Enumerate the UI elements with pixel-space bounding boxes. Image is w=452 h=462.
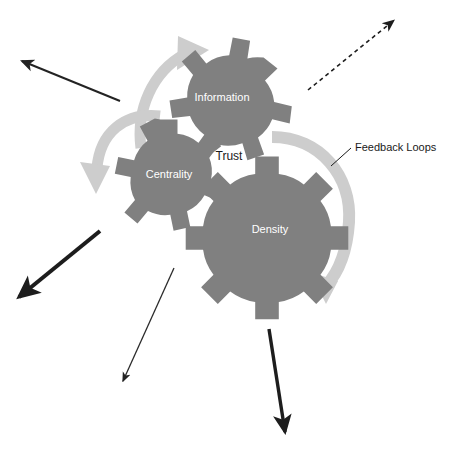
trust-label: Trust: [216, 149, 244, 163]
arrow-down-center-thick: [269, 329, 285, 432]
arrow-down-left-thick: [19, 231, 100, 297]
feedback-loops-label: Feedback Loops: [355, 141, 437, 153]
gear-density-label: Density: [252, 223, 289, 235]
gear-density[interactable]: Density: [186, 157, 349, 320]
gear-information-label: Information: [194, 91, 249, 103]
callout-leader-line: [331, 148, 351, 166]
feedback-loops-callout: Feedback Loops: [331, 141, 437, 166]
arrow-up-right-dashed: [308, 21, 393, 90]
arrow-down-left-thin: [123, 268, 174, 381]
arrow-up-left: [22, 61, 120, 101]
gear-density-shape: [186, 157, 349, 320]
diagram-svg: Information Centrality Density Trust Fee…: [0, 0, 452, 462]
gear-centrality-label: Centrality: [146, 168, 193, 180]
diagram-canvas: Information Centrality Density Trust Fee…: [0, 0, 452, 462]
